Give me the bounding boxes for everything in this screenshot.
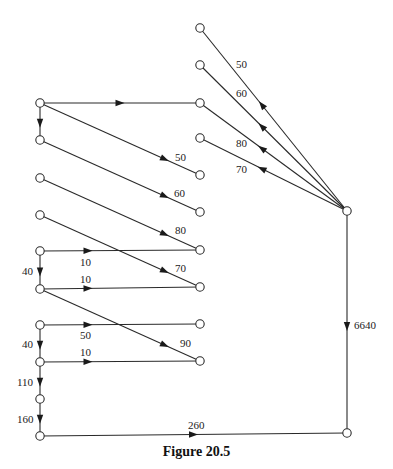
arrowhead-icon — [258, 167, 267, 174]
edge-label: 60 — [174, 187, 186, 199]
node-R2 — [196, 61, 204, 69]
arrowhead-icon — [37, 119, 43, 128]
arrowhead-icon — [259, 101, 267, 110]
edge-label: 40 — [22, 338, 34, 350]
edge-L5-R7 — [40, 250, 200, 251]
node-R5 — [196, 171, 204, 179]
node-L5 — [36, 247, 44, 255]
edge-label: 90 — [180, 337, 192, 349]
edge-label: 80 — [175, 224, 187, 236]
edge-label: 50 — [236, 58, 248, 70]
arrowhead-icon — [37, 267, 43, 276]
arrowhead-icon — [83, 322, 92, 328]
edges-layer — [40, 28, 347, 436]
node-L3 — [36, 174, 44, 182]
node-R9 — [196, 320, 204, 328]
arrowhead-icon — [116, 100, 125, 106]
arrowhead-icon — [83, 285, 92, 291]
arrowhead-icon — [37, 415, 43, 424]
node-T — [343, 429, 351, 437]
edge-label: 70 — [236, 163, 248, 175]
arrowhead-icon — [344, 322, 350, 331]
edge-label: 110 — [17, 376, 34, 388]
edge-label: 40 — [22, 265, 34, 277]
edge-L7-R9 — [40, 324, 200, 325]
node-L6 — [36, 285, 44, 293]
node-S — [343, 207, 351, 215]
arrowhead-icon — [37, 378, 43, 387]
edge-label: 50 — [80, 329, 92, 341]
edge-label: 260 — [188, 419, 205, 431]
node-L4 — [36, 211, 44, 219]
node-L1 — [36, 99, 44, 107]
arrowhead-icon — [83, 359, 92, 365]
arrowhead-icon — [258, 146, 267, 154]
arrowhead-icon — [159, 229, 169, 236]
edge-label: 10 — [80, 273, 92, 285]
arrowhead-icon — [159, 154, 169, 161]
node-R8 — [196, 283, 204, 291]
edge-label: 6640 — [354, 319, 377, 331]
edge-label: 10 — [80, 346, 92, 358]
arrowhead-icon — [83, 248, 92, 254]
figure-caption: Figure 20.5 — [0, 444, 393, 460]
edge-label: 160 — [17, 413, 34, 425]
node-R4 — [196, 134, 204, 142]
arrowhead-icon — [189, 431, 198, 437]
edge-L8-R10 — [40, 361, 200, 362]
node-L8 — [36, 358, 44, 366]
network-diagram: 5060807010401090504010110160260506080706… — [0, 0, 393, 469]
edge-label: 80 — [236, 137, 248, 149]
edge-label: 70 — [175, 262, 187, 274]
arrowhead-icon — [37, 341, 43, 350]
edge-labels-layer: 5060807010401090504010110160260506080706… — [17, 58, 377, 431]
node-R1 — [196, 24, 204, 32]
edge-label: 60 — [236, 87, 248, 99]
edge-L6-R8 — [40, 287, 200, 289]
node-R3 — [196, 99, 204, 107]
node-L10 — [36, 432, 44, 440]
nodes-layer — [36, 24, 351, 440]
edge-S-R2 — [200, 65, 347, 211]
arrowhead-icon — [159, 340, 169, 347]
arrowheads-layer — [37, 100, 350, 438]
node-L7 — [36, 321, 44, 329]
node-L2 — [36, 136, 44, 144]
edge-L1-R5 — [40, 103, 200, 175]
arrowhead-icon — [159, 191, 169, 198]
edge-label: 10 — [80, 256, 92, 268]
node-R7 — [196, 246, 204, 254]
arrowhead-icon — [159, 266, 169, 273]
node-R6 — [196, 208, 204, 216]
edge-label: 50 — [175, 151, 187, 163]
node-R10 — [196, 357, 204, 365]
edge-S-R4 — [200, 138, 347, 211]
node-L9 — [36, 395, 44, 403]
